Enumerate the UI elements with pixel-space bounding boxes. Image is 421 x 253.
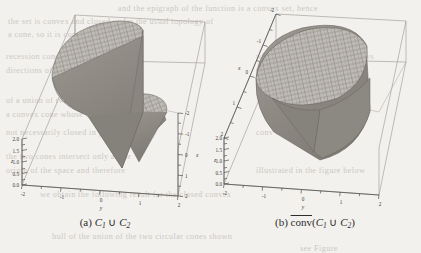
panel-a-caption: (a) C1 ∪ C2 [0, 216, 210, 230]
panel-b-ytick-4: 2 [379, 201, 382, 207]
panel-b-ylabel: y [301, 204, 305, 210]
figure-panel-a: 0.0 0.5 1.0 1.5 2.0 z [0, 0, 210, 251]
panel-b-ytick-1: -1 [262, 193, 267, 199]
panel-b-ztick-2: 1.0 [216, 158, 223, 164]
panel-a-ylabel: y [99, 205, 103, 211]
panel-b-caption-union-op: ∪ [329, 216, 337, 228]
panel-b-caption: (b) conv(C1 ∪ C2) [210, 216, 420, 230]
panel-a-xtick-2: 0 [185, 152, 188, 158]
panel-b-xtick-2: 0 [245, 69, 248, 75]
panel-a-ztick-4: 2.0 [13, 136, 20, 142]
panel-b-ytick-0: -2 [223, 190, 228, 196]
panel-a-ytick-4: 2 [178, 202, 181, 208]
panel-a-caption-sub1: 1 [102, 221, 106, 230]
panel-a-caption-c1: C [95, 216, 102, 228]
panel-b-3d-plot: -2 -1 0 1 2 x 0.0 [210, 0, 420, 215]
panel-a-caption-c2: C [119, 216, 126, 228]
panel-b-xtick-3: 1 [232, 100, 235, 106]
panel-b-caption-c2: C [340, 216, 347, 228]
panel-a-xtick-1: -1 [185, 131, 190, 137]
panel-b-y-axis: -2 -1 0 1 2 y [223, 184, 382, 210]
panel-a-ytick-2: 0 [100, 197, 103, 203]
panel-b-caption-c1: C [316, 216, 323, 228]
panel-a-ytick-3: 1 [139, 200, 142, 206]
panel-a-x-axis: -2 -1 0 1 2 x [178, 110, 199, 199]
panel-b-caption-sub1: 1 [323, 221, 327, 230]
panel-b-caption-close-paren: ) [351, 216, 355, 228]
panel-a-caption-prefix: (a) [80, 216, 92, 228]
panel-a-ytick-1: -1 [60, 194, 65, 200]
panel-a-ztick-1: 0.5 [13, 171, 20, 177]
panel-b-ztick-1: 0.5 [216, 170, 223, 176]
panel-b-caption-conv: conv [291, 216, 312, 228]
panel-a-ztick-0: 0.0 [13, 182, 20, 188]
panel-b-ztick-4: 2.0 [216, 135, 223, 141]
panel-b-ytick-2: 0 [302, 196, 305, 202]
panel-a-ytick-0: -2 [21, 191, 26, 197]
panel-b-xlabel: x [237, 65, 241, 71]
panel-b-xtick-1: -1 [257, 38, 262, 44]
panel-a-y-axis: -2 -1 0 1 2 y [21, 185, 181, 211]
panel-a-cone-c1 [52, 21, 143, 168]
panel-a-xlabel: x [195, 152, 199, 158]
panel-a-ztick-2: 1.0 [13, 159, 20, 165]
panel-a-xtick-3: 1 [185, 173, 188, 179]
panel-b-ztick-0: 0.0 [216, 181, 223, 187]
panel-a-caption-union-op: ∪ [108, 216, 116, 228]
figure-panel-b: -2 -1 0 1 2 x 0.0 [210, 0, 420, 251]
panel-a-3d-plot: 0.0 0.5 1.0 1.5 2.0 z [0, 0, 210, 215]
panel-b-xtick-0: -2 [270, 7, 275, 13]
panel-a-z-axis: 0.0 0.5 1.0 1.5 2.0 z [10, 136, 27, 188]
panel-b-ytick-3: 1 [340, 199, 343, 205]
panel-a-caption-sub2: 2 [127, 221, 131, 230]
panel-b-convex-hull-body [256, 25, 370, 160]
panel-a-xtick-4: 2 [185, 193, 188, 199]
panel-b-ztick-3: 1.5 [216, 147, 223, 153]
panel-a-ztick-3: 1.5 [13, 148, 20, 154]
panel-a-xtick-0: -2 [185, 110, 190, 116]
panel-b-z-axis: 0.0 0.5 1.0 1.5 2.0 z [213, 135, 229, 187]
panel-b-caption-prefix: (b) [275, 216, 288, 228]
